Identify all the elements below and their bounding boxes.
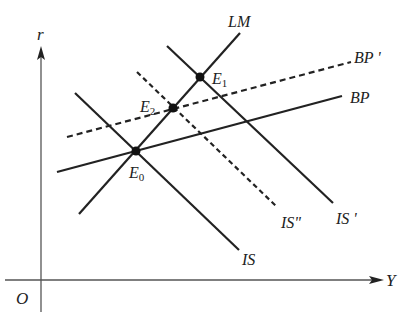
axes: r Y O — [5, 25, 397, 312]
is-double-prime-label: IS" — [280, 214, 301, 231]
is-prime-label: IS ' — [335, 210, 357, 227]
r-axis-label: r — [37, 25, 44, 44]
e0-point — [132, 147, 141, 156]
e2-point — [169, 104, 178, 113]
is-double-prime-curve — [137, 72, 277, 207]
lm-curve — [79, 33, 240, 214]
e0-label: E0 — [128, 164, 145, 183]
point-labels: E0 E1 E2 — [128, 70, 227, 183]
lm-label: LM — [227, 13, 252, 30]
curves — [57, 33, 351, 250]
bp-label: BP — [350, 89, 370, 106]
bp-prime-label: BP ' — [354, 49, 381, 66]
origin-label: O — [16, 289, 28, 308]
is-lm-bp-diagram: r Y O LM IS IS ' IS" BP BP ' E0 E1 E2 — [0, 0, 405, 314]
e1-label: E1 — [211, 70, 227, 89]
bp-curve — [57, 96, 342, 172]
is-curve — [75, 93, 239, 250]
bp-prime-curve — [67, 62, 351, 137]
e2-label: E2 — [139, 98, 155, 117]
e1-point — [196, 73, 205, 82]
curve-labels: LM IS IS ' IS" BP BP ' — [227, 13, 381, 268]
y-axis-label: Y — [386, 271, 397, 290]
is-label: IS — [241, 251, 255, 268]
